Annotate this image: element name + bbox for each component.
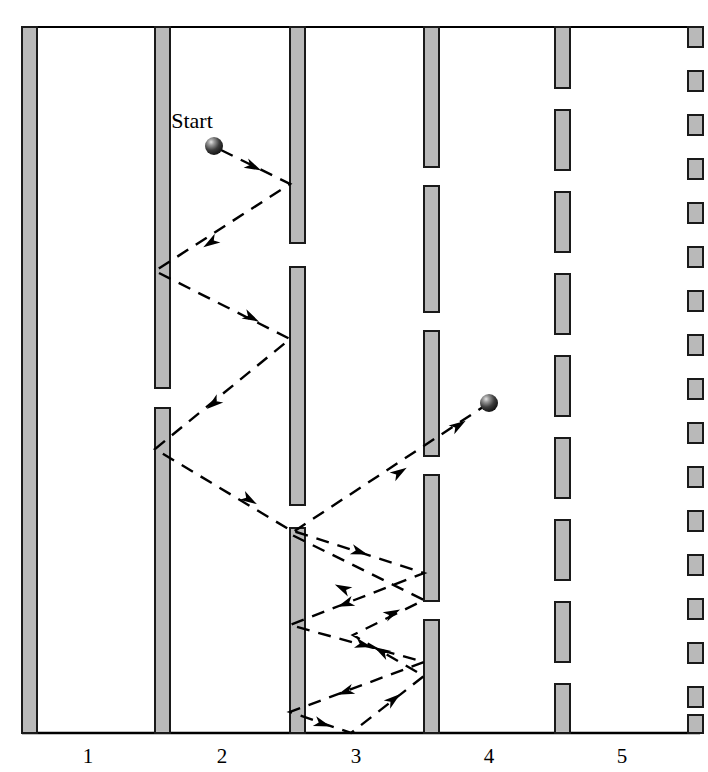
column-1-solid xyxy=(22,27,37,733)
axis-tick-label-5: 5 xyxy=(617,744,628,768)
direction-arrow-icon xyxy=(244,158,264,175)
barrier-segment xyxy=(688,27,703,47)
direction-arrow-icon xyxy=(371,642,391,660)
axis-tick-label-2: 2 xyxy=(217,744,228,768)
barrier-segment xyxy=(555,684,570,733)
direction-arrow-icon xyxy=(336,596,356,612)
barrier-segment xyxy=(424,475,439,601)
direction-arrow-icon xyxy=(240,491,260,509)
direction-arrow-icon xyxy=(204,394,224,413)
direction-arrow-icon xyxy=(336,684,356,700)
axis-tick-label-4: 4 xyxy=(484,744,495,768)
start-ball xyxy=(205,137,223,155)
barrier-segment xyxy=(688,687,703,707)
barrier-segment xyxy=(555,192,570,252)
column-4-dashed xyxy=(424,27,439,733)
barrier-segment xyxy=(555,438,570,498)
barrier-segment xyxy=(688,643,703,663)
column-6-dotted xyxy=(688,27,703,733)
barrier-segment xyxy=(555,110,570,170)
barrier-segment xyxy=(555,27,570,88)
plot-frame xyxy=(22,27,700,733)
barrier-segment xyxy=(688,247,703,267)
start-label: Start xyxy=(171,108,213,133)
barrier-segment xyxy=(424,186,439,312)
barrier-segment xyxy=(688,159,703,179)
barrier-segment xyxy=(688,599,703,619)
barrier-segment xyxy=(290,267,305,505)
barrier-segment xyxy=(688,555,703,575)
barrier-segment xyxy=(688,71,703,91)
barrier-segment xyxy=(688,715,703,733)
barrier-segment xyxy=(688,291,703,311)
axis-tick-label-1: 1 xyxy=(83,744,94,768)
barrier-segment xyxy=(688,379,703,399)
axis-tick-labels: 12345 xyxy=(83,744,628,768)
diagram-canvas: Start 12345 xyxy=(0,0,708,772)
direction-arrow-icon xyxy=(200,234,220,252)
ball-markers xyxy=(205,137,498,412)
barrier-segment xyxy=(424,331,439,456)
direction-arrow-icon xyxy=(313,716,332,731)
barrier-segment xyxy=(555,274,570,334)
barrier-segment xyxy=(688,335,703,355)
barrier-segment xyxy=(22,27,37,733)
barrier-segment xyxy=(555,356,570,416)
barrier-segment xyxy=(688,203,703,223)
barrier-segment xyxy=(424,620,439,733)
column-5-dashed xyxy=(555,27,570,733)
axis-tick-label-3: 3 xyxy=(351,744,362,768)
barrier-segment xyxy=(555,602,570,662)
barrier-columns xyxy=(22,27,703,733)
barrier-segment xyxy=(688,511,703,531)
barrier-segment xyxy=(555,520,570,580)
barrier-segment xyxy=(290,27,305,243)
end-ball xyxy=(480,394,498,412)
bouncing-ball-diagram: Start 12345 xyxy=(0,0,708,772)
column-2-broken xyxy=(155,27,170,733)
barrier-segment xyxy=(290,528,305,733)
barrier-segment xyxy=(688,423,703,443)
barrier-segment xyxy=(688,115,703,135)
barrier-segment xyxy=(155,27,170,388)
barrier-segment xyxy=(688,467,703,487)
barrier-segment xyxy=(424,27,439,167)
direction-arrow-icon xyxy=(333,580,353,597)
direction-arrow-icon xyxy=(350,544,369,559)
